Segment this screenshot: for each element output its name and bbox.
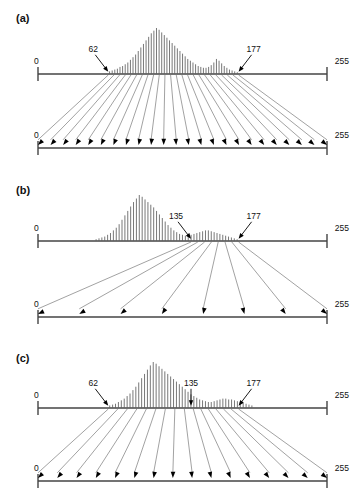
mapping-arrow <box>96 409 137 478</box>
mapping-arrow <box>57 409 118 478</box>
mapping-arrow <box>223 409 288 478</box>
mapping-arrow <box>193 75 226 145</box>
mapping-arrow <box>121 242 205 314</box>
mapping-arrow <box>138 75 154 145</box>
svg-text:177: 177 <box>247 211 261 221</box>
mapping-arrow <box>77 409 128 478</box>
axis-label-min-a-output: 0 <box>34 130 39 140</box>
mapping-arrow <box>76 75 126 145</box>
mapping-arrow <box>239 242 327 314</box>
axis-label-min-a-input: 0 <box>34 56 39 66</box>
mapping-arrow <box>227 75 302 145</box>
axis-label-max-b-output: 255 <box>335 299 349 309</box>
mapping-arrow <box>233 75 315 145</box>
axis-label-max-c-output: 255 <box>335 463 349 473</box>
svg-text:62: 62 <box>89 378 99 388</box>
mapping-arrow <box>239 75 327 145</box>
mapping-arrow <box>88 75 131 145</box>
svg-text:135: 135 <box>169 211 183 221</box>
mapping-arrow <box>115 409 146 478</box>
annotation-177-c: 177 <box>239 378 261 406</box>
mapping-arrow <box>134 409 156 478</box>
mapping-arrow <box>126 75 148 145</box>
mapping-arrow <box>222 75 290 145</box>
mapping-arrow <box>188 75 214 145</box>
mapping-arrow <box>51 75 114 145</box>
axis-label-min-b-output: 0 <box>34 299 39 309</box>
annotation-177-a: 177 <box>239 44 261 72</box>
mapping-arrow <box>79 242 198 314</box>
mapping-arrow <box>171 75 178 145</box>
svg-text:177: 177 <box>247 44 261 54</box>
figure-canvas: (a) (b) (c) 0255025562177025502551351770… <box>0 0 353 495</box>
axis-label-min-c-output: 0 <box>34 463 39 473</box>
axis-label-max-a-output: 255 <box>335 130 349 140</box>
axis-label-max-c-input: 255 <box>335 390 349 400</box>
annotation-177-b: 177 <box>239 211 261 239</box>
svg-text:62: 62 <box>89 44 99 54</box>
annotation-62-c: 62 <box>89 378 109 406</box>
mapping-arrow <box>38 242 191 314</box>
axis-label-min-c-input: 0 <box>34 390 39 400</box>
axis-label-min-b-input: 0 <box>34 223 39 233</box>
mapping-arrow <box>38 75 108 145</box>
mapping-arrow <box>193 409 212 478</box>
mapping-arrow <box>210 75 264 145</box>
svg-text:135: 135 <box>184 378 198 388</box>
mapping-arrow <box>231 409 308 478</box>
mapping-arrow <box>176 75 190 145</box>
mapping-arrow <box>239 409 327 478</box>
mapping-arrow <box>201 409 231 478</box>
svg-text:177: 177 <box>247 378 261 388</box>
mapping-arrow <box>184 409 193 478</box>
axis-label-max-b-input: 255 <box>335 223 349 233</box>
mapping-arrow <box>171 409 176 478</box>
mapping-arrow <box>216 409 269 478</box>
mapping-arrow <box>38 409 108 478</box>
mapping-arrow <box>152 409 165 478</box>
mapping-arrow <box>101 75 137 145</box>
axis-label-max-a-input: 255 <box>335 56 349 66</box>
mapping-arrow <box>225 242 245 314</box>
mapping-arrow <box>232 242 286 314</box>
mapping-arrow <box>162 242 212 314</box>
mapping-arrow <box>161 75 166 145</box>
annotation-62-a: 62 <box>89 44 109 72</box>
figure-vector-layer: 0255025562177025502551351770255025562135… <box>0 0 353 495</box>
mapping-arrow <box>63 75 119 145</box>
mapping-arrow <box>202 242 218 314</box>
annotation-135-c: 135 <box>184 378 198 406</box>
